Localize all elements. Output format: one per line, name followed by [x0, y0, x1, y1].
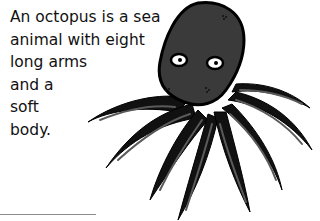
right-eye-icon — [207, 57, 223, 69]
text-line-6: body. — [10, 119, 160, 142]
footer-divider — [0, 214, 96, 215]
document-page: An octopus is a sea animal with eight lo… — [0, 0, 320, 221]
text-line-5: soft — [10, 96, 160, 119]
left-eye-icon — [171, 54, 187, 66]
description-text: An octopus is a sea animal with eight lo… — [10, 6, 160, 141]
text-line-2: animal with eight — [10, 29, 160, 52]
octopus-head — [159, 3, 244, 105]
text-line-3: long arms — [10, 51, 160, 74]
text-line-4: and a — [10, 74, 160, 97]
text-line-1: An octopus is a sea — [10, 6, 160, 29]
